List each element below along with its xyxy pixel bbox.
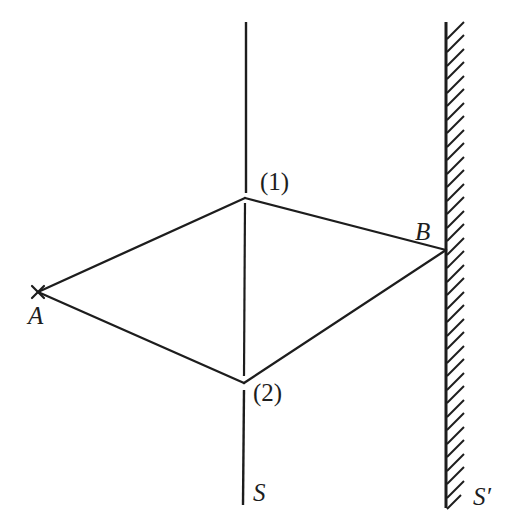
- screen-point-label: B: [415, 219, 430, 244]
- ray-source-to-slit-one: [38, 198, 245, 292]
- point-a-cross-marker: [32, 286, 44, 298]
- barrier-screen-label: S: [253, 480, 266, 505]
- ray-slit-two-to-point-b: [244, 250, 446, 383]
- observation-screen-label: S′: [473, 484, 491, 509]
- ray-source-to-slit-two: [38, 292, 244, 383]
- source-point-label: A: [28, 303, 43, 328]
- barrier-middle-segment: [244, 203, 245, 376]
- slit-one-label: (1): [260, 169, 289, 194]
- physics-diagram-figure: (1) (2) A B S S′: [0, 0, 525, 531]
- barrier-lower-segment: [243, 390, 244, 505]
- slit-two-label: (2): [253, 380, 282, 405]
- diagram-canvas: [0, 0, 525, 531]
- screen-hatching: [447, 22, 464, 509]
